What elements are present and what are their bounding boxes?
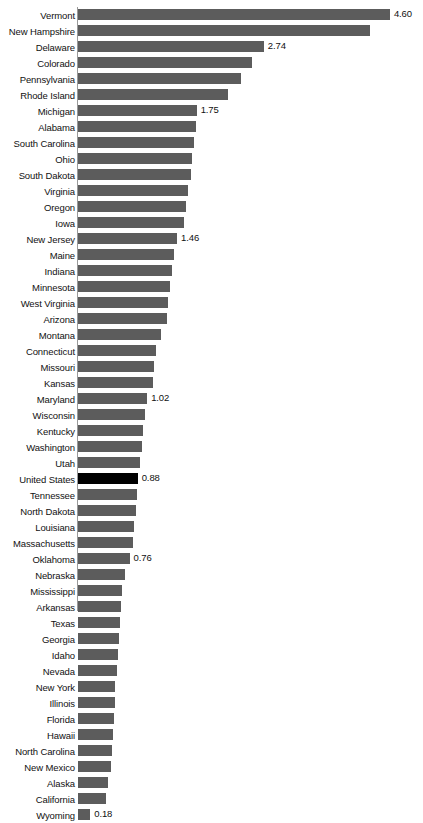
bar-container — [78, 121, 196, 132]
category-label: Utah — [0, 458, 75, 469]
bar-row: Kansas — [0, 375, 423, 391]
bar-container — [78, 377, 153, 388]
bar-row: Virginia — [0, 183, 423, 199]
bar — [78, 201, 186, 212]
bar — [78, 697, 115, 708]
category-label: Rhode Island — [0, 90, 75, 101]
bar — [78, 265, 172, 276]
bar-row: California — [0, 791, 423, 807]
category-label: New Mexico — [0, 762, 75, 773]
bar-container — [78, 25, 370, 36]
category-label: Kansas — [0, 378, 75, 389]
bar-row: Montana — [0, 327, 423, 343]
category-label: Montana — [0, 330, 75, 341]
bar — [78, 777, 108, 788]
bar-container — [78, 201, 186, 212]
bar-row: Oklahoma0.76 — [0, 551, 423, 567]
bar-container — [78, 761, 111, 772]
bar — [78, 505, 136, 516]
category-label: Vermont — [0, 10, 75, 21]
bar-container — [78, 73, 241, 84]
bar-container — [78, 793, 106, 804]
bar-row: Tennessee — [0, 487, 423, 503]
bar — [78, 745, 112, 756]
bar-container — [78, 601, 121, 612]
bar-row: Iowa — [0, 215, 423, 231]
bar-container — [78, 473, 138, 484]
bar — [78, 553, 130, 564]
category-label: Colorado — [0, 58, 75, 69]
bar-container — [78, 9, 390, 20]
bar-row: Pennsylvania — [0, 71, 423, 87]
bar-container — [78, 457, 140, 468]
bar-container — [78, 713, 114, 724]
bar — [78, 153, 192, 164]
bar — [78, 457, 140, 468]
bar-value-label: 0.18 — [94, 808, 112, 819]
category-label: New Jersey — [0, 234, 75, 245]
category-label: Indiana — [0, 266, 75, 277]
bar-container — [78, 697, 115, 708]
bar-row: North Carolina — [0, 743, 423, 759]
bar — [78, 537, 133, 548]
bar-row: Indiana — [0, 263, 423, 279]
bar-container — [78, 409, 145, 420]
bar-value-label: 0.88 — [142, 472, 160, 483]
bar — [78, 9, 390, 20]
category-label: Illinois — [0, 698, 75, 709]
bar-container — [78, 537, 133, 548]
category-label: United States — [0, 474, 75, 485]
bar — [78, 809, 90, 820]
bar-container — [78, 521, 134, 532]
bar-container — [78, 313, 167, 324]
category-label: Massachusetts — [0, 538, 75, 549]
bar-row: Oregon — [0, 199, 423, 215]
category-label: Kentucky — [0, 426, 75, 437]
bar — [78, 73, 241, 84]
category-label: New York — [0, 682, 75, 693]
bar-row: Nebraska — [0, 567, 423, 583]
bar — [78, 105, 197, 116]
category-label: Minnesota — [0, 282, 75, 293]
category-label: North Carolina — [0, 746, 75, 757]
category-label: Arizona — [0, 314, 75, 325]
bar-value-label: 1.02 — [151, 392, 169, 403]
bar — [78, 617, 120, 628]
bar-container — [78, 217, 184, 228]
bar-row: Nevada — [0, 663, 423, 679]
category-label: Oregon — [0, 202, 75, 213]
bar-container — [78, 617, 120, 628]
bar-row: Vermont4.60 — [0, 7, 423, 23]
bar-row: South Dakota — [0, 167, 423, 183]
bar-container — [78, 57, 252, 68]
bar — [78, 137, 194, 148]
bar — [78, 233, 177, 244]
category-label: Arkansas — [0, 602, 75, 613]
category-label: Louisiana — [0, 522, 75, 533]
bar-row: New Hampshire — [0, 23, 423, 39]
bar-container — [78, 169, 191, 180]
category-label: Texas — [0, 618, 75, 629]
category-label: Iowa — [0, 218, 75, 229]
bar-row: Utah — [0, 455, 423, 471]
bar-row: Illinois — [0, 695, 423, 711]
bar — [78, 57, 252, 68]
bar-row: Kentucky — [0, 423, 423, 439]
category-label: Washington — [0, 442, 75, 453]
category-label: West Virginia — [0, 298, 75, 309]
bar-row: West Virginia — [0, 295, 423, 311]
bar — [78, 297, 168, 308]
bar-container — [78, 233, 177, 244]
bar-value-label: 0.76 — [134, 552, 152, 563]
category-label: Pennsylvania — [0, 74, 75, 85]
bar-row: South Carolina — [0, 135, 423, 151]
bar-container — [78, 553, 130, 564]
bar-row: Georgia — [0, 631, 423, 647]
bar-container — [78, 729, 113, 740]
bar-container — [78, 489, 137, 500]
category-label: Nebraska — [0, 570, 75, 581]
category-label: Hawaii — [0, 730, 75, 741]
bar-row: Minnesota — [0, 279, 423, 295]
